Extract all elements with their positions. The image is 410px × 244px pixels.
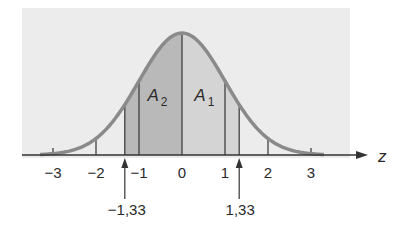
arrow-up-icon xyxy=(121,158,128,168)
tick-label: −2 xyxy=(87,164,104,181)
tick-label: −3 xyxy=(44,164,61,181)
tick-label: 1 xyxy=(221,164,229,181)
arrow-up-icon xyxy=(236,158,243,168)
marker-label: −1,33 xyxy=(108,201,146,218)
tick-label: −1 xyxy=(130,164,147,181)
marker-label: 1,33 xyxy=(226,201,255,218)
tick-label: 2 xyxy=(264,164,272,181)
normal-distribution-diagram: z −3−2−10123 −1,331,33 A2A1 xyxy=(0,0,410,244)
tick-label: 0 xyxy=(178,164,186,181)
z-axis-arrow-icon xyxy=(356,151,368,159)
z-axis-label: z xyxy=(377,147,387,166)
tick-label: 3 xyxy=(307,164,315,181)
